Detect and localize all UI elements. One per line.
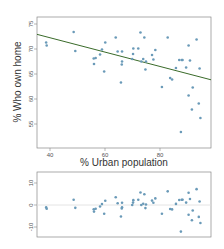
y-tick-label: 60 — [28, 95, 34, 102]
data-point — [144, 68, 147, 71]
data-point — [121, 50, 124, 53]
data-point — [185, 66, 188, 69]
residual-point — [191, 209, 194, 212]
data-point — [74, 50, 77, 53]
data-point — [142, 58, 145, 61]
residual-point — [132, 201, 135, 204]
residual-point — [120, 215, 123, 218]
main-data-points — [45, 31, 202, 134]
data-point — [120, 81, 123, 84]
residual-point — [140, 204, 143, 207]
data-point — [116, 50, 119, 53]
data-point — [145, 60, 148, 63]
data-point — [132, 53, 135, 56]
data-point — [171, 78, 174, 81]
y-tick-label: 10 — [28, 179, 34, 186]
residual-point — [121, 202, 124, 205]
residual-point — [175, 203, 178, 206]
residual-point — [151, 199, 154, 202]
x-tick-label: 40 — [47, 152, 54, 158]
regression-line — [37, 34, 211, 79]
residual-point — [154, 197, 157, 200]
residual-point — [131, 204, 134, 207]
data-point — [103, 70, 106, 73]
residual-point — [145, 203, 148, 206]
y-tick-label: 65 — [28, 70, 34, 77]
residual-point — [178, 199, 181, 202]
residual-point — [197, 216, 200, 219]
residual-point — [137, 198, 140, 201]
residual-point — [114, 196, 117, 199]
data-point — [152, 58, 155, 61]
data-point — [94, 57, 97, 60]
y-tick-label: 75 — [28, 20, 34, 27]
residual-point — [93, 210, 96, 213]
data-point — [197, 102, 200, 105]
chart-figure: 5560657075 406080 % Urban population % W… — [0, 0, 224, 249]
x-axis-label: % Urban population — [80, 157, 168, 168]
residual-point — [94, 207, 97, 210]
residual-point — [101, 203, 104, 206]
data-point — [180, 131, 183, 134]
data-point — [187, 44, 190, 47]
residual-point — [161, 213, 164, 216]
residual-point — [72, 198, 75, 201]
data-point — [154, 49, 157, 52]
data-point — [178, 59, 181, 62]
data-point — [104, 41, 107, 44]
residual-data-points — [45, 188, 202, 233]
data-point — [151, 54, 154, 57]
residual-point — [99, 205, 102, 208]
y-tick-label: -10 — [28, 222, 34, 231]
residual-point — [187, 191, 190, 194]
data-point — [132, 47, 135, 50]
residual-point — [181, 198, 184, 201]
data-point — [131, 58, 134, 61]
residual-point — [166, 190, 169, 193]
residual-point — [187, 213, 190, 216]
residual-point — [116, 202, 119, 205]
residual-point — [132, 199, 135, 202]
data-point — [191, 86, 194, 89]
data-point — [191, 108, 194, 111]
residual-point — [171, 208, 174, 211]
data-point — [140, 60, 143, 63]
data-point — [198, 67, 201, 70]
data-point — [45, 41, 48, 44]
y-tick-label: 55 — [28, 120, 34, 127]
data-point — [114, 36, 117, 39]
residual-point — [152, 202, 155, 205]
residual-point — [120, 207, 123, 210]
residual-point — [45, 207, 48, 210]
data-point — [195, 38, 198, 41]
data-point — [137, 47, 140, 50]
data-point — [181, 59, 184, 62]
residual-point — [74, 207, 77, 210]
residual-point — [189, 198, 192, 201]
data-point — [120, 63, 123, 66]
residual-point — [195, 188, 198, 191]
residual-point — [180, 230, 183, 233]
residual-point — [103, 213, 106, 216]
residual-plot-frame — [37, 172, 211, 237]
residual-point — [143, 193, 146, 196]
data-point — [45, 44, 48, 47]
data-point — [187, 94, 190, 97]
residual-point — [191, 219, 194, 222]
residual-point — [198, 200, 201, 203]
y-tick-label: 0 — [28, 203, 34, 207]
residual-point — [144, 207, 147, 210]
residual-point — [104, 200, 107, 203]
main-scatter-panel: 5560657075 406080 % Urban population % W… — [12, 17, 211, 168]
data-point — [72, 31, 75, 34]
y-axis-label: % Who own home — [12, 41, 23, 123]
data-point — [93, 63, 96, 66]
main-plot-frame — [37, 17, 211, 148]
residual-point — [139, 191, 142, 194]
residual-y-axis: -10010 — [28, 179, 37, 231]
data-point — [101, 48, 104, 51]
data-point — [143, 36, 146, 39]
data-point — [175, 67, 178, 70]
data-point — [121, 60, 124, 63]
residual-point — [199, 222, 202, 225]
